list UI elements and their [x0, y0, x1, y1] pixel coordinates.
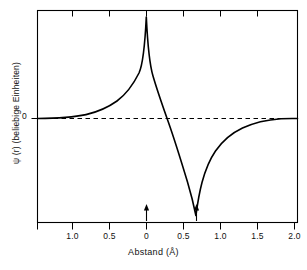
plot-canvas: [0, 0, 307, 270]
x-axis-title: Abstand (Å): [0, 247, 307, 257]
nucleus-marker-left: [144, 204, 149, 221]
x-tick-label-6: 2.0: [279, 232, 307, 241]
chart-figure: 0 1.0 0.5 0 0.5 1.0 1.5 2.0 Abstand (Å) …: [0, 0, 307, 270]
y-axis-title: ψ (r) (beliebige Einheiten): [11, 28, 21, 198]
y-axis-zero-label: 0: [22, 112, 27, 121]
x-tick-label-5: 1.5: [242, 232, 273, 241]
x-ticks-bottom: [38, 223, 295, 230]
x-ticks-top: [73, 11, 258, 17]
psi-curve: [38, 17, 298, 216]
x-tick-label-2: 0: [131, 232, 162, 241]
x-tick-label-0: 1.0: [57, 232, 88, 241]
x-tick-label-4: 1.0: [205, 232, 236, 241]
x-tick-label-1: 0.5: [94, 232, 125, 241]
x-tick-label-3: 0.5: [168, 232, 199, 241]
